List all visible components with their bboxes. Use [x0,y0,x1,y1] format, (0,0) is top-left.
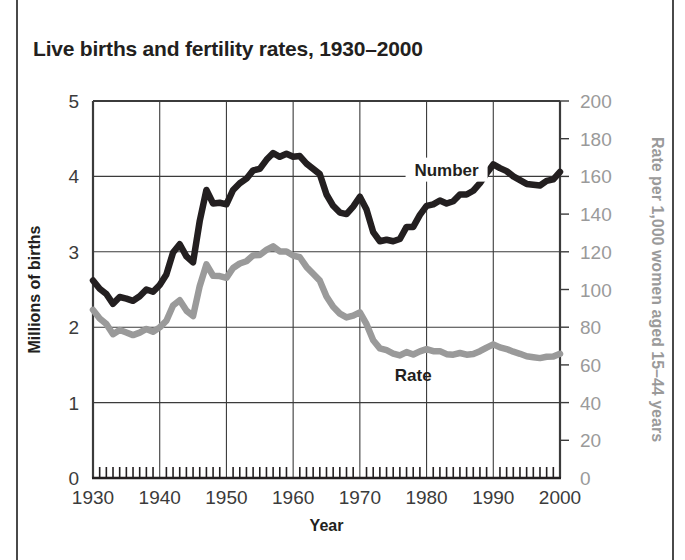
xtick-label: 1970 [339,487,381,508]
ytick-label-right: 100 [580,280,612,301]
ytick-label-right: 140 [580,204,612,225]
minor-ticks-group [93,101,569,478]
axis-title-left: Millions of births [26,225,43,353]
ytick-label-left: 1 [68,393,79,414]
ytick-label-right: 120 [580,242,612,263]
series-line-rate [93,246,560,358]
xtick-label: 1990 [472,487,514,508]
ytick-label-left: 4 [68,166,79,187]
series-label-number: Number [414,161,479,180]
ytick-label-right: 0 [580,468,591,489]
ytick-label-right: 200 [580,91,612,112]
ytick-label-left: 0 [68,468,79,489]
series-label-rate: Rate [395,366,432,385]
xtick-label: 2000 [539,487,581,508]
ytick-label-right: 60 [580,355,601,376]
line-chart: 0123450204060801001201401601802001930194… [0,0,685,560]
xtick-label: 1950 [205,487,247,508]
ytick-label-left: 5 [68,91,79,112]
xtick-label: 1940 [139,487,181,508]
chart-plot-area: 0123450204060801001201401601802001930194… [0,0,685,560]
axis-title-right: Rate per 1,000 women aged 15–44 years [649,137,666,442]
series-line-number [93,153,560,304]
ytick-label-right: 20 [580,430,601,451]
figure-container: Live births and fertility rates, 1930–20… [0,0,685,560]
tick-labels-group: 0123450204060801001201401601802001930194… [68,91,611,508]
ytick-label-left: 2 [68,317,79,338]
ytick-label-right: 180 [580,129,612,150]
xtick-label: 1960 [272,487,314,508]
ytick-label-right: 80 [580,317,601,338]
xtick-label: 1930 [72,487,114,508]
axis-title-bottom: Year [310,517,344,534]
ytick-label-left: 3 [68,242,79,263]
ytick-label-right: 160 [580,166,612,187]
xtick-label: 1980 [405,487,447,508]
ytick-label-right: 40 [580,393,601,414]
